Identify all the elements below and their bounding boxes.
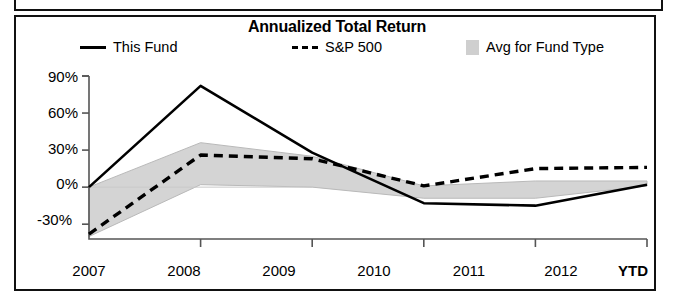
y-tick-label: 90% — [20, 68, 78, 85]
y-tick-label: -30% — [14, 211, 72, 228]
x-tick-label: 2010 — [339, 262, 409, 279]
screenshot-root: Annualized Total Return This Fund S&P 50… — [0, 0, 674, 306]
chart-panel: Annualized Total Return This Fund S&P 50… — [14, 15, 656, 291]
y-tick-label: 0% — [20, 175, 78, 192]
x-tick-label: 2011 — [434, 262, 504, 279]
y-tick-label: 30% — [20, 140, 78, 157]
top-strip-divider — [14, 0, 663, 11]
x-tick-label: 2007 — [54, 262, 124, 279]
x-tick-label-ytd: YTD — [618, 262, 648, 279]
y-tick-label: 60% — [20, 104, 78, 121]
x-tick-label: 2012 — [526, 262, 596, 279]
plot-area — [16, 17, 658, 293]
x-tick-label: 2009 — [244, 262, 314, 279]
avg-fund-type-band — [89, 143, 647, 237]
x-tick-label: 2008 — [149, 262, 219, 279]
